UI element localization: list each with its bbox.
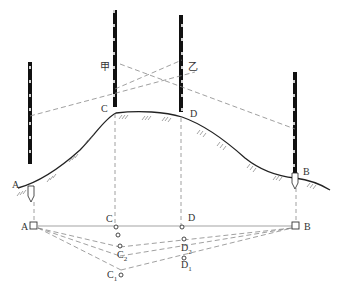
leveling-rod-c <box>113 10 117 107</box>
label-yi: 乙 <box>188 61 198 72</box>
stake-b <box>292 173 298 189</box>
point-c <box>114 225 118 229</box>
label-b-bottom: B <box>304 221 311 232</box>
leveling-rod-d <box>179 15 183 112</box>
label-a-bottom: A <box>21 221 29 232</box>
point-d <box>180 225 184 229</box>
label-c1: C1 <box>107 269 118 283</box>
point-a <box>30 222 37 229</box>
point-d2 <box>182 237 186 241</box>
point-c2 <box>118 244 122 248</box>
label-b-top: B <box>303 166 310 177</box>
stake-a <box>28 186 34 202</box>
label-a-top: A <box>12 179 20 190</box>
plan-dashed-lines <box>38 228 292 270</box>
leveling-rod-a <box>28 62 32 164</box>
label-c-top: C <box>101 103 108 114</box>
point-c-mid <box>116 233 120 237</box>
point-b <box>292 222 299 229</box>
projection-lines <box>34 114 296 226</box>
terrain-profile <box>18 112 330 190</box>
label-c2: C2 <box>117 249 128 263</box>
terrain-hatching <box>17 115 316 196</box>
label-d-top: D <box>190 108 197 119</box>
leveling-rod-b <box>293 72 297 174</box>
point-c1 <box>119 273 123 277</box>
sight-lines <box>30 60 295 129</box>
label-d1: D1 <box>181 259 192 273</box>
label-c-bottom: C <box>106 213 113 224</box>
label-d-bottom: D <box>188 212 195 223</box>
surveying-diagram: A B C D 甲 乙 A B C D C2 C1 D2 D1 <box>0 0 348 292</box>
label-jia: 甲 <box>100 61 110 72</box>
